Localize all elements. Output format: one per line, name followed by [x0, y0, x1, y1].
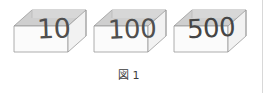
- figure-caption: 図1: [0, 66, 258, 82]
- box-illustration-1: 10: [10, 4, 90, 62]
- figure-illustration: 10 100: [0, 0, 271, 93]
- box-row: 10 100: [0, 4, 258, 64]
- box-illustration-3: 500: [170, 4, 250, 62]
- box-illustration-2: 100: [90, 4, 170, 62]
- box-shape-icon: [170, 4, 250, 62]
- box-shape-icon: [10, 4, 90, 62]
- page-divider: [262, 0, 263, 93]
- figure-caption-label: 図: [118, 69, 130, 82]
- box-shape-icon: [90, 4, 170, 62]
- figure-caption-number: 1: [133, 69, 141, 82]
